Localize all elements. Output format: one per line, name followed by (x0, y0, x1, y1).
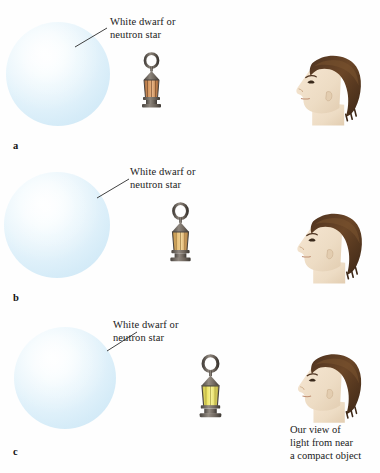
view-caption: Our view of light from near a compact ob… (290, 423, 361, 462)
view-caption-line2: light from near (290, 436, 361, 449)
observer-head-profile-c (279, 335, 373, 429)
star-label-b-line2: neutron star (130, 179, 196, 192)
gravitational-light-bending-figure: White dwarf or neutron star (0, 0, 380, 473)
leader-line-a (74, 27, 108, 49)
view-caption-line3: a compact object (290, 449, 361, 462)
panel-b: White dwarf or neutron star (0, 152, 380, 310)
panel-letter-c: c (13, 446, 18, 457)
compact-object-sphere-c (14, 327, 116, 429)
panel-letter-a: a (13, 140, 18, 151)
panel-letter-b: b (13, 292, 19, 303)
panel-a: White dwarf or neutron star (0, 0, 380, 158)
star-label-b-line1: White dwarf or (130, 166, 196, 179)
star-label-a-line1: White dwarf or (110, 16, 176, 29)
star-label-c-line1: White dwarf or (113, 319, 179, 332)
compact-object-sphere-b (4, 172, 110, 278)
leader-line-b (96, 178, 130, 200)
lantern-bright (196, 354, 225, 420)
lantern-dim (139, 52, 164, 110)
star-label-b: White dwarf or neutron star (130, 166, 196, 191)
star-label-a: White dwarf or neutron star (110, 16, 176, 41)
star-label-a-line2: neutron star (110, 29, 176, 42)
view-caption-line1: Our view of (290, 423, 361, 436)
star-label-c-line2: neutron star (113, 332, 179, 345)
observer-head-profile-a (277, 36, 373, 132)
star-label-c: White dwarf or neutron star (113, 319, 179, 344)
panel-c: White dwarf or neutron star (0, 305, 380, 473)
observer-head-profile-b (278, 194, 374, 290)
lantern-medium (167, 202, 194, 264)
